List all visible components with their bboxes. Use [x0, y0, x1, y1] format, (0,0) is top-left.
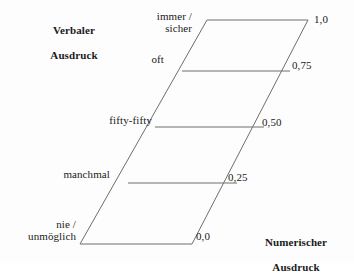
verbal-axis-title-line2: Ausdruck	[34, 49, 114, 62]
verbal-tick-label-nie: nie / unmöglich	[10, 219, 76, 242]
numeric-tick-label-0-50: 0,50	[262, 117, 302, 129]
numeric-axis-title-line2: Ausdruck	[248, 261, 344, 274]
verbal-tick-label-oft: oft	[108, 54, 164, 66]
verbal-axis-title-line1: Verbaler	[34, 24, 114, 37]
numeric-tick-label-0-75: 0,75	[292, 60, 332, 72]
numeric-tick-label-0-0: 0,0	[196, 231, 230, 243]
numeric-axis-title: Numerischer Ausdruck	[248, 223, 344, 275]
numeric-tick-label-0-25: 0,25	[228, 172, 268, 184]
verbal-tick-label-fifty-fifty: fifty-fifty	[78, 115, 152, 127]
verbal-tick-label-manchmal: manchmal	[44, 169, 110, 181]
verbal-axis-title: Verbaler Ausdruck	[34, 11, 114, 74]
verbal-tick-label-immer: immer / sicher	[132, 11, 192, 34]
numeric-axis-title-line1: Numerischer	[248, 236, 344, 249]
numeric-tick-label-1-0: 1,0	[314, 14, 352, 26]
